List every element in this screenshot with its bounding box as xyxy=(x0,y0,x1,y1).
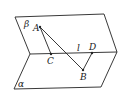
plane-beta-outline xyxy=(15,14,117,54)
segment-BD xyxy=(83,53,92,70)
label-B: B xyxy=(79,72,87,82)
plane-alpha-outline xyxy=(14,52,117,89)
label-alpha: α xyxy=(18,79,24,89)
label-l: l xyxy=(77,43,80,53)
label-A: A xyxy=(32,23,40,33)
point-B xyxy=(82,69,84,71)
label-C: C xyxy=(47,56,54,66)
segment-AC xyxy=(40,27,51,54)
edge-line-l xyxy=(30,52,117,54)
point-C xyxy=(50,53,52,55)
label-D: D xyxy=(88,42,96,52)
dihedral-diagram: β A l D C B α xyxy=(0,0,125,101)
point-D xyxy=(91,52,93,54)
label-beta: β xyxy=(23,19,29,29)
